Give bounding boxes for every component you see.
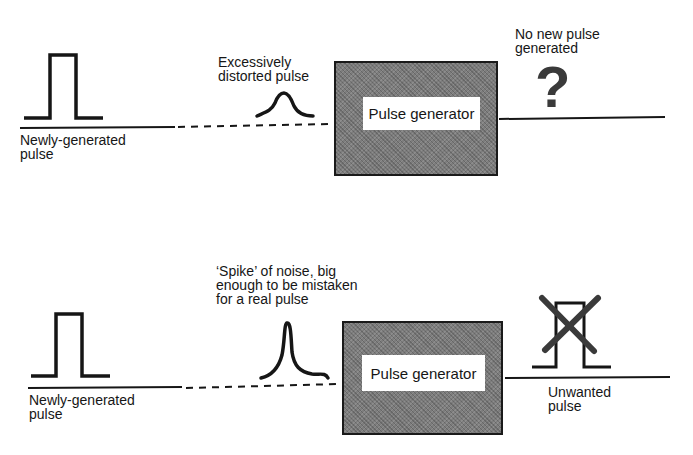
bottom-transmission-line	[28, 387, 182, 388]
pulse-regeneration-diagram: Newly-generated pulse Excessively distor…	[0, 0, 693, 455]
top-pulse-generator-label: Pulse generator	[363, 97, 480, 130]
top-output-label: No new pulse generated	[515, 27, 600, 55]
top-distorted-pulse-label: Excessively distorted pulse	[218, 55, 309, 83]
bottom-pulse-generator-box: Pulse generator	[342, 321, 503, 435]
bottom-noise-spike-icon	[261, 323, 328, 378]
bottom-output-line	[505, 377, 670, 378]
top-input-pulse-icon	[24, 55, 103, 118]
crossed-out-pulse-icon	[532, 298, 611, 367]
top-input-pulse-label: Newly-generated pulse	[20, 133, 126, 161]
bottom-output-label: Unwanted pulse	[548, 385, 611, 413]
top-output-line	[499, 117, 665, 119]
bottom-pulse-generator-label: Pulse generator	[362, 355, 485, 391]
top-pulse-generator-box: Pulse generator	[334, 61, 498, 176]
question-mark-icon: ?	[535, 62, 570, 112]
bottom-noise-spike-label: ‘Spike’ of noise, big enough to be mista…	[216, 264, 358, 306]
bottom-input-pulse-label: Newly-generated pulse	[29, 393, 135, 421]
bottom-input-pulse-icon	[31, 314, 110, 376]
top-transmission-line	[20, 127, 175, 128]
top-dashed-line	[178, 124, 333, 127]
top-distorted-pulse-icon	[257, 93, 313, 116]
bottom-dashed-line	[186, 384, 340, 388]
